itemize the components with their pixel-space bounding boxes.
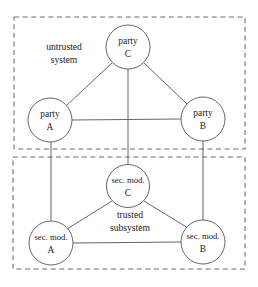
diagram-svg: untrusted system trusted subsystem party… <box>0 0 258 287</box>
node-label-sec-mod-c-line1: sec. mod. <box>111 175 144 185</box>
edge-party-c-party-a <box>66 63 112 106</box>
node-circle-party-b[interactable] <box>181 97 225 141</box>
group-label-trusted-subsystem-line1: trusted <box>117 209 143 220</box>
edge-party-a-party-b <box>72 119 181 120</box>
diagram-canvas: untrusted system trusted subsystem party… <box>0 0 258 287</box>
node-label-sec-mod-a-line2: A <box>48 245 55 255</box>
node-circle-sec-mod-a[interactable] <box>29 221 73 265</box>
node-circle-sec-mod-b[interactable] <box>181 220 225 264</box>
node-circle-party-a[interactable] <box>28 98 72 142</box>
node-label-party-c-line2: C <box>125 49 131 59</box>
node-label-sec-mod-b-line1: sec. mod. <box>186 231 219 241</box>
group-label-untrusted-system-line2: system <box>51 54 78 65</box>
node-label-sec-mod-a-line1: sec. mod. <box>34 232 67 242</box>
node-label-sec-mod-b-line2: B <box>200 244 206 254</box>
node-sec-mod-a[interactable]: sec. mod. A <box>29 221 73 265</box>
node-label-party-c-line1: party <box>118 36 138 46</box>
edge-sec-mod-c-sec-mod-b <box>144 201 188 228</box>
node-label-sec-mod-c-line2: C <box>125 188 131 198</box>
group-label-trusted-subsystem-line2: subsystem <box>110 222 151 233</box>
group-label-untrusted-system-line1: untrusted <box>46 41 82 52</box>
node-label-party-b-line1: party <box>193 108 213 118</box>
node-label-party-a-line1: party <box>40 109 60 119</box>
node-sec-mod-c[interactable]: sec. mod. C <box>107 165 150 208</box>
node-party-c[interactable]: party C <box>106 25 150 69</box>
edge-party-c-party-b <box>144 63 188 105</box>
node-label-party-b-line2: B <box>200 121 206 131</box>
node-party-b[interactable]: party B <box>181 97 225 141</box>
node-circle-party-c[interactable] <box>106 25 150 69</box>
edge-sec-mod-c-sec-mod-a <box>67 201 112 229</box>
edge-sec-mod-a-sec-mod-b <box>73 242 181 243</box>
node-sec-mod-b[interactable]: sec. mod. B <box>181 220 225 264</box>
node-party-a[interactable]: party A <box>28 98 72 142</box>
node-circle-sec-mod-c[interactable] <box>107 165 150 208</box>
node-label-party-a-line2: A <box>47 122 54 132</box>
